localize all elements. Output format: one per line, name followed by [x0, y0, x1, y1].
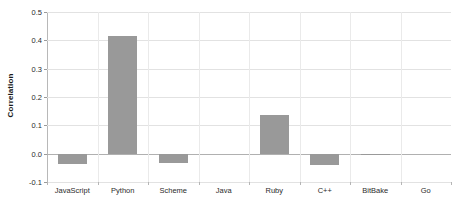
gridline-vertical — [300, 12, 301, 182]
y-axis-tick-label: 0.2 — [32, 93, 42, 102]
y-axis-tick-mark — [44, 69, 47, 70]
bar — [159, 154, 188, 164]
y-axis-tick-label: 0.5 — [32, 8, 42, 17]
plot-area — [47, 12, 451, 182]
x-axis-tick-mark — [300, 182, 301, 185]
x-axis-tick-label: JavaScript — [55, 186, 90, 195]
x-axis-tick-label: Scheme — [159, 186, 187, 195]
y-axis-tick-mark — [44, 125, 47, 126]
bar-chart: Correlation 0.50.40.30.20.10.0-0.1 JavaS… — [0, 0, 459, 213]
x-axis-tick-label: C++ — [318, 186, 332, 195]
y-axis-tick-label: 0.1 — [32, 121, 42, 130]
y-axis-title-text: Correlation — [7, 73, 16, 117]
y-axis-tick-label: 0.4 — [32, 36, 42, 45]
x-axis-tick-mark — [47, 182, 48, 185]
bar — [108, 36, 137, 154]
y-axis-title: Correlation — [0, 0, 22, 190]
x-axis-tick-labels: JavaScriptPythonSchemeJavaRubyC++BitBake… — [47, 186, 451, 206]
y-axis-tick-label: -0.1 — [29, 178, 42, 187]
x-axis-tick-mark — [401, 182, 402, 185]
gridline-vertical — [148, 12, 149, 182]
y-axis-tick-labels: 0.50.40.30.20.10.0-0.1 — [22, 0, 45, 213]
x-axis-tick-label: Java — [216, 186, 232, 195]
x-axis-tick-mark — [148, 182, 149, 185]
bar — [310, 154, 339, 165]
gridline-vertical — [350, 12, 351, 182]
gridline-vertical — [199, 12, 200, 182]
x-axis-tick-mark — [350, 182, 351, 185]
gridline-vertical — [249, 12, 250, 182]
x-axis-tick-label: Python — [111, 186, 134, 195]
x-axis-tick-label: BitBake — [362, 186, 388, 195]
x-axis-tick-label: Go — [421, 186, 431, 195]
gridline-vertical — [401, 12, 402, 182]
bar — [260, 115, 289, 153]
bar — [361, 154, 390, 155]
gridline-vertical — [98, 12, 99, 182]
bar — [58, 154, 87, 164]
y-axis-tick-mark — [44, 12, 47, 13]
y-axis-tick-mark — [44, 40, 47, 41]
x-axis-tick-mark — [451, 182, 452, 185]
x-axis-tick-label: Ruby — [265, 186, 283, 195]
y-axis-tick-label: 0.0 — [32, 149, 42, 158]
x-axis-tick-mark — [199, 182, 200, 185]
x-axis-tick-mark — [249, 182, 250, 185]
y-axis-tick-label: 0.3 — [32, 64, 42, 73]
y-axis-tick-mark — [44, 97, 47, 98]
x-axis-tick-mark — [98, 182, 99, 185]
